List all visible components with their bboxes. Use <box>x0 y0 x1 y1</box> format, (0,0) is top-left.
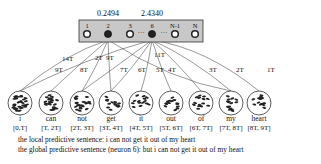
spike-pattern-circle <box>189 91 213 115</box>
time-range-label: [2T, 3T] <box>70 124 93 132</box>
local-sentence: the local predictive sentence: i can not… <box>18 135 195 144</box>
curve-label: 4T <box>168 66 177 74</box>
word-label: i <box>19 114 21 123</box>
word-node: it[4T, 5T] <box>129 91 153 132</box>
curve-label: 5T <box>156 66 165 74</box>
curve-label: 8T <box>80 66 89 74</box>
time-range-label: [6T, 7T] <box>189 124 212 132</box>
word-label: it <box>139 114 144 123</box>
curve-label: 3T <box>209 66 218 74</box>
curve-label: 1T <box>267 66 276 74</box>
inactive-neuron-icon <box>84 31 91 38</box>
word-label: heart <box>252 114 268 123</box>
word-node: not[2T, 3T] <box>70 91 94 132</box>
time-range-label: [5T, 6T] <box>159 124 182 132</box>
curve-label: 14T <box>62 55 74 63</box>
curve-labels: 14T 9T 8T 2T 9T 11T 7T 6T 5T 4T 3T 2T 1T <box>55 51 276 74</box>
word-node: i[0,T] <box>8 91 32 132</box>
neuron-label: N <box>193 22 198 29</box>
word-nodes: i[0,T]can[T, 2T]not[2T, 3T]get[3T, 4T]it… <box>8 91 271 132</box>
active-neuron-icon <box>148 30 155 37</box>
spike-mark <box>45 96 49 98</box>
word-node: heart[8T, 9T] <box>247 91 271 132</box>
active-neuron-icon <box>104 30 111 37</box>
word-label: my <box>226 114 236 123</box>
word-label: out <box>166 114 177 123</box>
spike-mark <box>196 108 200 110</box>
connection-curve <box>20 40 108 91</box>
curve-label: 2T <box>236 66 245 74</box>
neuron-6-value: 2.4340 <box>141 9 163 18</box>
curve-label: 6T <box>138 66 147 74</box>
neuron-label: 2 <box>106 22 109 29</box>
time-range-label: [0,T] <box>13 124 27 132</box>
word-node: of[6T, 7T] <box>189 91 213 132</box>
ellipsis: ··· <box>161 29 168 37</box>
inactive-neuron-icon <box>127 31 134 38</box>
time-range-label: [T, 2T] <box>41 124 61 132</box>
time-range-label: [8T, 9T] <box>247 124 270 132</box>
word-node: out[5T, 6T] <box>159 91 183 132</box>
spike-mark <box>75 96 79 98</box>
neuron-label: 1 <box>85 22 88 29</box>
time-range-label: [3T, 4T] <box>99 124 122 132</box>
neuron-label: N-1 <box>170 22 180 29</box>
curve-label: 9T <box>55 66 64 74</box>
spike-mark <box>48 101 52 103</box>
curve-label: 9T <box>106 54 115 62</box>
word-label: of <box>198 114 205 123</box>
curve-label: 2T <box>95 54 104 62</box>
global-sentence: the global predictive sentence (neuron 6… <box>18 145 244 154</box>
spike-pattern-circle <box>159 91 183 115</box>
inactive-neuron-icon <box>192 31 199 38</box>
neuron-label: 3 <box>128 22 131 29</box>
word-node: can[T, 2T] <box>39 91 63 132</box>
neuron-2-value: 0.2494 <box>97 9 119 18</box>
word-node: my[7T, 8T] <box>219 91 243 132</box>
inactive-neuron-icon <box>172 31 179 38</box>
time-range-label: [4T, 5T] <box>129 124 152 132</box>
word-label: get <box>106 114 116 123</box>
spike-mark <box>19 107 23 109</box>
connection-curve <box>108 40 111 91</box>
word-node: get[3T, 4T] <box>99 91 123 132</box>
curve-label: 7T <box>120 66 129 74</box>
curve-label: 11T <box>154 51 166 59</box>
word-label: can <box>46 114 57 123</box>
word-label: not <box>77 114 88 123</box>
time-range-label: [7T, 8T] <box>219 124 242 132</box>
ellipsis: ··· <box>138 29 145 37</box>
connection-curve <box>152 40 231 91</box>
